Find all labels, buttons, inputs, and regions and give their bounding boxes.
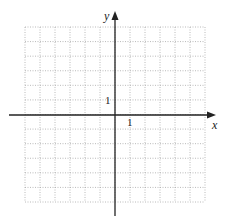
coordinate-plane: x y 1 1	[0, 0, 231, 219]
x-axis-label: x	[211, 118, 218, 132]
y-tick-label: 1	[105, 94, 111, 106]
y-axis-arrow-icon	[112, 11, 119, 20]
x-tick-label: 1	[127, 116, 133, 128]
y-axis-label: y	[103, 9, 110, 23]
